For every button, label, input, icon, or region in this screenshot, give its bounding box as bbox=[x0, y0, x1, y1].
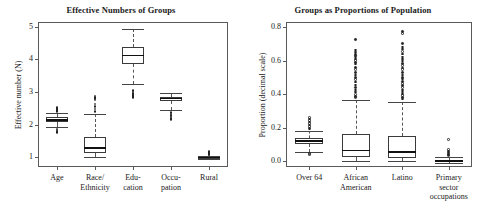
box-whisker bbox=[402, 102, 403, 136]
y-tick-label: 1 bbox=[11, 152, 33, 161]
x-tick-mark bbox=[309, 167, 310, 170]
x-tick-label: Rural bbox=[186, 173, 232, 183]
whisker-cap bbox=[295, 131, 323, 132]
box-median bbox=[84, 147, 106, 149]
panel-title-right: Groups as Proportions of Population bbox=[242, 5, 484, 15]
box-outlier bbox=[401, 53, 404, 56]
panel-effective-numbers: Effective Numbers of Groups Effective nu… bbox=[0, 0, 242, 219]
box-median bbox=[160, 98, 182, 100]
box-rect bbox=[342, 134, 370, 157]
whisker-cap bbox=[388, 102, 416, 103]
whisker-cap bbox=[388, 161, 416, 162]
whisker-cap bbox=[342, 161, 370, 162]
x-tick-mark bbox=[449, 167, 450, 170]
whisker-cap bbox=[84, 114, 106, 115]
box-whisker bbox=[309, 131, 310, 139]
y-tick-mark bbox=[35, 92, 38, 93]
y-tick-mark bbox=[283, 94, 286, 95]
box-whisker bbox=[171, 101, 172, 110]
box-outlier bbox=[94, 110, 97, 113]
y-tick-label: 0.0 bbox=[259, 156, 281, 165]
whisker-cap bbox=[435, 163, 463, 164]
whisker-cap bbox=[122, 29, 144, 30]
y-tick-mark bbox=[35, 157, 38, 158]
box-outlier bbox=[132, 96, 135, 99]
box-whisker bbox=[133, 29, 134, 48]
box-whisker bbox=[95, 114, 96, 137]
box-whisker bbox=[133, 64, 134, 84]
box-rect bbox=[84, 137, 106, 153]
x-tick-mark bbox=[57, 167, 58, 170]
box-whisker bbox=[356, 100, 357, 134]
whisker-cap bbox=[435, 157, 463, 158]
y-tick-label: 2 bbox=[11, 120, 33, 129]
figure-container: Effective Numbers of Groups Effective nu… bbox=[0, 0, 484, 219]
x-tick-mark bbox=[402, 167, 403, 170]
y-tick-label: 3 bbox=[11, 87, 33, 96]
box-outlier bbox=[447, 138, 450, 141]
y-tick-mark bbox=[35, 125, 38, 126]
box-median bbox=[388, 151, 416, 153]
x-tick-mark bbox=[356, 167, 357, 170]
whisker-cap bbox=[84, 157, 106, 158]
y-tick-label: 0.8 bbox=[259, 22, 281, 31]
whisker-cap bbox=[122, 84, 144, 85]
box-outlier bbox=[401, 42, 404, 45]
plot-area-right bbox=[286, 22, 472, 167]
x-tick-mark bbox=[171, 167, 172, 170]
box-outlier bbox=[308, 128, 311, 131]
y-tick-label: 5 bbox=[11, 22, 33, 31]
box-median bbox=[46, 119, 68, 121]
box-median bbox=[295, 140, 323, 142]
y-tick-mark bbox=[283, 61, 286, 62]
y-tick-mark bbox=[35, 59, 38, 60]
box-median bbox=[435, 160, 463, 162]
panel-title-left: Effective Numbers of Groups bbox=[0, 5, 242, 15]
y-tick-label: 0.4 bbox=[259, 89, 281, 98]
x-tick-mark bbox=[209, 167, 210, 170]
x-tick-label: Primary sector occupations bbox=[422, 173, 477, 202]
y-tick-mark bbox=[283, 128, 286, 129]
y-tick-mark bbox=[283, 27, 286, 28]
box-rect bbox=[388, 136, 416, 158]
y-tick-label: 0.2 bbox=[259, 123, 281, 132]
x-tick-mark bbox=[95, 167, 96, 170]
whisker-cap bbox=[160, 93, 182, 94]
panel-proportions: Groups as Proportions of Population Prop… bbox=[242, 0, 484, 219]
whisker-cap bbox=[342, 100, 370, 101]
box-whisker bbox=[309, 144, 310, 153]
box-outlier bbox=[401, 32, 404, 35]
y-tick-mark bbox=[283, 161, 286, 162]
x-tick-mark bbox=[133, 167, 134, 170]
box-median bbox=[198, 157, 220, 159]
box-median bbox=[122, 55, 144, 57]
y-tick-label: 0.6 bbox=[259, 56, 281, 65]
box-median bbox=[342, 150, 370, 152]
box-outlier bbox=[308, 153, 311, 156]
y-tick-mark bbox=[35, 27, 38, 28]
y-tick-label: 4 bbox=[11, 54, 33, 63]
